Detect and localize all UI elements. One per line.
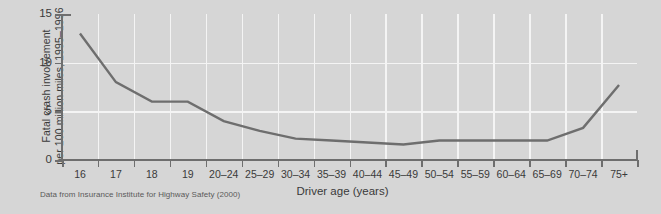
figure-container: Fatal crash involvement per 100 million … <box>0 0 661 214</box>
series-line <box>80 33 619 144</box>
data-line-svg <box>0 0 661 214</box>
figure-caption: Data from Insurance Institute for Highwa… <box>40 190 240 199</box>
